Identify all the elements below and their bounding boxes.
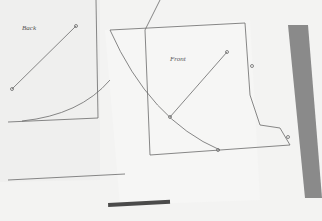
pattern-photo: Back Front xyxy=(0,0,322,221)
back-label: Back xyxy=(22,24,36,32)
pattern-drawing xyxy=(0,0,322,221)
front-label: Front xyxy=(170,55,186,63)
